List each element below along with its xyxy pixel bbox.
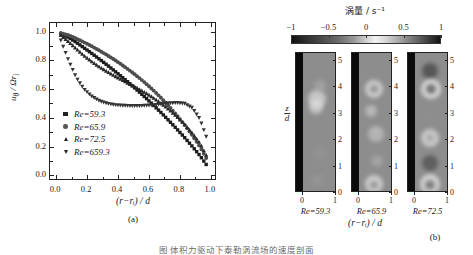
vortex-blob [422,155,438,171]
z-tick-label: 0 [450,188,454,197]
z-axis-tick [445,60,448,61]
r-tick-label: 1 [333,196,337,205]
z-tick-label: 2 [394,135,398,144]
z-tick-label: 5 [394,55,398,64]
axis-tick [50,147,54,148]
panel-re-label: Re=65.9 [357,206,387,216]
z-axis-tick [389,86,392,87]
vorticity-panel [407,52,448,192]
legend-item: Re=59.3 [60,108,110,121]
r-axis-tick [414,192,415,195]
r-tick-label: 1 [389,196,393,205]
z-axis-tick [333,139,336,140]
z-tick-label: 4 [338,82,342,91]
axis-minor-tick [213,161,216,162]
axis-tick [211,60,215,61]
z-axis-tick [445,113,448,114]
r-axis-tick [335,192,336,195]
y-tick-label: 0.4 [22,112,46,122]
axis-minor-tick [134,177,135,180]
y-axis-label-a: uθ / Ωri [8,74,21,101]
z-over-d-axis-label: z d [284,104,290,124]
vortex-blob [426,134,434,142]
axis-tick [211,23,212,27]
axis-minor-tick [50,161,53,162]
inner-cylinder-wall [408,53,415,191]
z-tick-label: 5 [450,55,454,64]
x-tick-label: 0.6 [143,184,154,194]
axis-minor-tick [50,132,53,133]
z-axis-tick [333,166,336,167]
axis-tick [87,23,88,27]
axis-tick [211,147,215,148]
colorbar-tick-label: 0 [364,22,368,32]
triangle-up-marker-icon [60,135,71,143]
x-tick-label: 1.0 [205,184,216,194]
axis-minor-tick [72,177,73,180]
z-tick-label: 1 [450,161,454,170]
colorbar-tick [291,35,292,38]
axis-minor-tick [50,46,53,47]
colorbar-tick-label: 1 [439,22,443,32]
z-axis-tick [445,166,448,167]
colorbar-tick-label: 0.5 [398,22,409,32]
axis-minor-tick [103,177,104,180]
axis-tick [211,118,215,119]
vortex-blob [422,63,438,79]
vortex-blob [370,85,378,93]
x-tick-label: 0.2 [81,184,92,194]
subfigure-label-a: (a) [128,214,138,224]
r-tick-label: 0 [412,196,416,205]
r-tick-label: 1 [445,196,449,205]
axis-tick [118,23,119,27]
colorbar-tick [404,35,405,38]
x-tick-label: 0.8 [174,184,185,194]
panel-a-velocity-profile: uθ / Ωri Re=59.3 Re=65.9 Re=72.5 Re=659.… [0,0,255,254]
vortex-blob [314,80,326,92]
axis-tick [211,89,215,90]
y-tick-label: 0.2 [22,141,46,151]
z-axis-tick [389,166,392,167]
axis-tick [56,175,57,179]
x-tick-label: 0.4 [112,184,123,194]
vortex-blob [309,100,323,114]
inner-cylinder-wall [296,53,303,191]
axis-minor-tick [213,103,216,104]
axis-tick [87,175,88,179]
colorbar-tick [329,35,330,38]
legend-item: Re=72.5 [60,133,110,146]
axis-minor-tick [72,23,73,26]
axis-minor-tick [164,23,165,26]
legend-item: Re=659.3 [60,146,110,159]
z-tick-label: 3 [394,108,398,117]
d-denominator: d [285,114,290,124]
z-tick-label: 3 [338,108,342,117]
z-axis-tick [445,86,448,87]
axis-minor-tick [213,46,216,47]
x-tick-label: 0.0 [50,184,61,194]
axis-minor-tick [195,23,196,26]
panel-re-label: Re=59.3 [301,206,331,216]
r-axis-tick [447,192,448,195]
axis-tick [211,32,215,33]
axis-tick [50,175,54,176]
z-tick-label: 1 [394,161,398,170]
vorticity-field [303,53,335,191]
legend-label: Re=659.3 [74,147,110,157]
colorbar-tick-label: −0.5 [321,22,336,32]
colorbar-tick [366,35,367,38]
axis-tick [180,175,181,179]
axis-minor-tick [103,23,104,26]
x-axis-label-a: (r−rᵢ) / d [116,196,150,206]
z-tick-label: 0 [394,188,398,197]
z-tick-label: 4 [394,82,398,91]
r-tick-label: 0 [300,196,304,205]
z-tick-label: 4 [450,82,454,91]
axis-minor-tick [50,75,53,76]
axis-minor-tick [213,132,216,133]
z-axis-tick [333,113,336,114]
figure-caption: 图 体积力驱动下泰勒涡流场的速度剖面 [0,243,473,255]
axis-tick [50,32,54,33]
r-axis-tick [302,192,303,195]
